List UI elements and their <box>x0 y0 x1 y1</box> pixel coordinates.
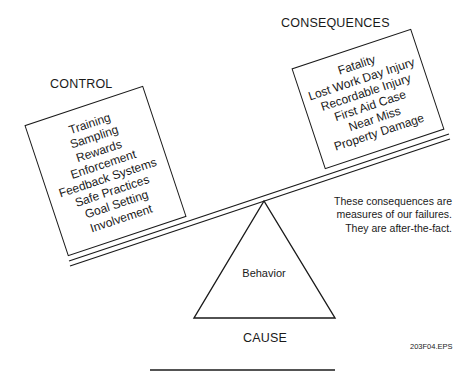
note-line: These consequences are <box>334 195 452 208</box>
consequences-title: CONSEQUENCES <box>281 16 390 30</box>
cause-label: CAUSE <box>243 331 287 345</box>
consequences-note: These consequences are measures of our f… <box>334 195 452 235</box>
control-title: CONTROL <box>50 77 113 91</box>
note-line: They are after-the-fact. <box>334 222 452 235</box>
figure-id: 203F04.EPS <box>410 342 453 351</box>
fulcrum-triangle <box>194 201 335 318</box>
note-line: measures of our failures. <box>334 208 452 221</box>
behavior-label: Behavior <box>242 267 285 279</box>
